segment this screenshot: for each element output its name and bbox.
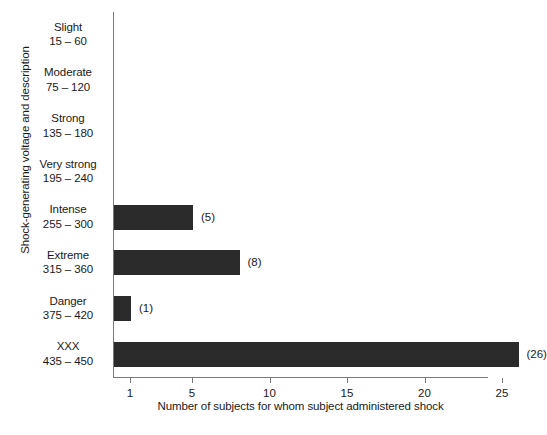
x-tick-label: 15 — [327, 387, 367, 399]
category-label: Strong135 – 180 — [30, 111, 106, 140]
x-tick-mark — [425, 378, 426, 383]
category-label-range: 195 – 240 — [30, 171, 106, 186]
bar-value-label: (26) — [527, 342, 547, 367]
x-tick-mark — [347, 378, 348, 383]
category-label-range: 75 – 120 — [30, 80, 106, 95]
category-label-name: Intense — [30, 202, 106, 217]
category-label-range: 135 – 180 — [30, 126, 106, 141]
category-label: Very strong195 – 240 — [30, 157, 106, 186]
category-label-range: 435 – 450 — [30, 354, 106, 369]
bar — [114, 205, 193, 230]
x-tick-mark — [502, 378, 503, 383]
bar-value-label: (8) — [248, 250, 262, 275]
category-label-name: Moderate — [30, 65, 106, 80]
x-axis-title: Number of subjects for whom subject admi… — [113, 400, 488, 412]
bar — [114, 250, 240, 275]
x-tick-label: 5 — [172, 387, 212, 399]
category-label-range: 315 – 360 — [30, 262, 106, 277]
bar — [114, 342, 519, 367]
category-label-name: XXX — [30, 339, 106, 354]
category-label: Extreme315 – 360 — [30, 248, 106, 277]
category-label: XXX435 – 450 — [30, 339, 106, 368]
category-label-name: Slight — [30, 20, 106, 35]
x-tick-mark — [192, 378, 193, 383]
category-label: Intense255 – 300 — [30, 202, 106, 231]
category-label: Slight15 – 60 — [30, 20, 106, 49]
category-label-range: 15 – 60 — [30, 34, 106, 49]
category-label: Moderate75 – 120 — [30, 65, 106, 94]
category-label-range: 255 – 300 — [30, 217, 106, 232]
category-label-name: Extreme — [30, 248, 106, 263]
bar-value-label: (1) — [139, 296, 153, 321]
category-label-name: Strong — [30, 111, 106, 126]
category-label-name: Danger — [30, 294, 106, 309]
x-tick-label: 25 — [482, 387, 522, 399]
x-tick-mark — [270, 378, 271, 383]
category-label-name: Very strong — [30, 157, 106, 172]
x-tick-label: 20 — [405, 387, 445, 399]
x-axis-line — [113, 377, 488, 378]
bar — [114, 296, 131, 321]
x-tick-label: 1 — [110, 387, 150, 399]
y-axis-line — [113, 12, 114, 377]
category-label-range: 375 – 420 — [30, 308, 106, 323]
category-label: Danger375 – 420 — [30, 294, 106, 323]
category-axis-labels: Slight15 – 60Moderate75 – 120Strong135 –… — [30, 12, 106, 377]
x-tick-mark — [130, 378, 131, 383]
x-tick-label: 10 — [250, 387, 290, 399]
bar-value-label: (5) — [201, 205, 215, 230]
plot-area: (5)(8)(1)(26)1510152025 — [113, 12, 488, 377]
